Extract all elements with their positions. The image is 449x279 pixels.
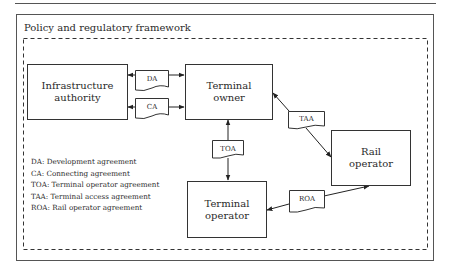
terminal-owner-box: Terminal owner	[185, 64, 273, 120]
legend: DA: Development agreement CA: Connecting…	[31, 156, 159, 214]
agreement-label-da: DA	[135, 75, 169, 83]
rail-operator-box: Rail operator	[331, 130, 411, 186]
terminal-owner-label: Terminal owner	[207, 80, 252, 104]
agreement-label-ca: CA	[135, 103, 169, 111]
agreement-label-taa: TAA	[288, 115, 325, 123]
legend-item: TOA: Terminal operator agreement	[31, 179, 159, 191]
legend-item: DA: Development agreement	[31, 156, 159, 168]
rail-operator-label: Rail operator	[349, 146, 393, 170]
infrastructure-authority-box: Infrastructure authority	[27, 64, 128, 120]
legend-item: ROA: Rail operator agreement	[31, 202, 159, 214]
infrastructure-authority-label: Infrastructure authority	[42, 80, 114, 104]
terminal-operator-box: Terminal operator	[187, 181, 267, 238]
agreement-label-toa: TOA	[212, 145, 244, 153]
legend-item: CA: Connecting agreement	[31, 168, 159, 180]
legend-item: TAA: Terminal access agreement	[31, 191, 159, 203]
agreement-label-roa: ROA	[289, 195, 325, 203]
terminal-operator-label: Terminal operator	[205, 198, 250, 222]
